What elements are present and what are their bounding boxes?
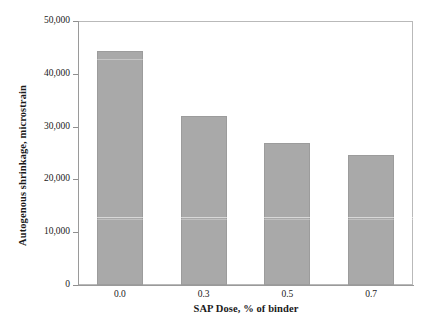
y-tick-mark (73, 179, 78, 180)
bar-chart: Autogenous shrinkage, microstrain 010,00… (0, 0, 428, 331)
y-tick-label: 30,000 (2, 121, 70, 131)
y-tick-label: 20,000 (2, 173, 70, 183)
y-tick-label: 40,000 (2, 68, 70, 78)
bar (97, 51, 143, 285)
x-tick-label: 0.7 (341, 289, 401, 299)
y-tick-mark (73, 21, 78, 22)
y-tick-mark (73, 74, 78, 75)
bar (264, 143, 310, 285)
y-tick-label: 10,000 (2, 226, 70, 236)
y-axis-line (78, 21, 79, 286)
y-tick-label: 0 (2, 279, 70, 289)
y-tick-mark (73, 232, 78, 233)
y-tick-label: 50,000 (2, 15, 70, 25)
x-axis-line (78, 285, 414, 286)
bar (348, 155, 394, 285)
x-tick-label: 0.3 (174, 289, 234, 299)
x-tick-label: 0.0 (90, 289, 150, 299)
y-tick-mark (73, 127, 78, 128)
y-tick-mark (73, 285, 78, 286)
x-axis-title: SAP Dose, % of binder (78, 303, 414, 314)
bar (181, 116, 227, 285)
x-tick-label: 0.5 (257, 289, 317, 299)
